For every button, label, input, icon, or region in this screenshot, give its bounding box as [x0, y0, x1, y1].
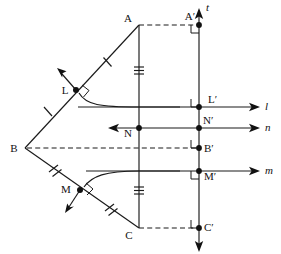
label-N: N [124, 127, 132, 139]
label-Aprime: A′ [185, 10, 195, 22]
dot-Mprime [196, 168, 202, 174]
label-Mprime: M′ [204, 170, 216, 182]
label-C: C [125, 229, 132, 241]
right-angle-L [82, 85, 89, 97]
vertex-dots [73, 22, 202, 231]
right-angle-M [86, 183, 93, 195]
dot-N [136, 125, 142, 131]
curve-from-M [84, 171, 180, 187]
tick-single-BL [44, 107, 52, 116]
label-Lprime: L′ [208, 93, 217, 105]
line-t-label: t [206, 1, 210, 13]
dot-Lprime [196, 104, 202, 110]
curve-from-L [79, 93, 180, 107]
dot-M [77, 187, 83, 193]
label-B: B [10, 142, 17, 154]
dot-Nprime [196, 125, 202, 131]
geometry-figure: t l n m [0, 0, 281, 254]
label-Nprime: N′ [203, 114, 213, 126]
dot-Bprime [196, 145, 202, 151]
normal-arrow-L [57, 68, 67, 78]
label-L: L [62, 84, 69, 96]
dot-Aprime [196, 22, 202, 28]
line-l-label: l [265, 100, 268, 112]
line-m-label: m [265, 164, 273, 176]
line-m-group: m [86, 164, 273, 176]
normal-arrow-M [65, 203, 74, 213]
geometry-canvas: t l n m [0, 0, 281, 254]
point-labels: A A′ L L′ N N′ B B′ M M′ C C′ [10, 10, 217, 241]
label-A: A [124, 12, 132, 24]
dot-L [73, 87, 79, 93]
label-M: M [61, 183, 71, 195]
segment-B-A [25, 25, 139, 148]
dot-Cprime [196, 225, 202, 231]
label-Cprime: C′ [204, 221, 214, 233]
triangle-sides [25, 25, 139, 228]
line-n-label: n [265, 121, 271, 133]
label-Bprime: B′ [204, 142, 214, 154]
line-n-group: n [108, 121, 271, 133]
